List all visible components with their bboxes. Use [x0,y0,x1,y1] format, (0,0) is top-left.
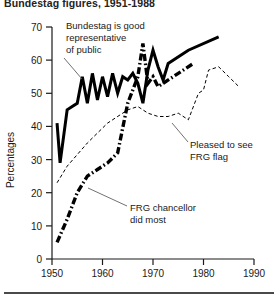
y-tick-label-60: 60 [31,55,43,66]
x-tick-label-1960: 1960 [91,268,114,279]
chart-plot-area: 70 60 50 40 30 20 10 0 1950 1960 1970 19… [0,0,278,302]
y-tick-label-20: 20 [31,188,43,199]
annotation-chancellor-line1: FRG chancellor [130,202,196,213]
annotation-chancellor: FRG chancellor did most [88,188,196,225]
y-tick-label-50: 50 [31,88,43,99]
y-tick-label-10: 10 [31,221,43,232]
annotation-bundestag: Bundestag is good representative of publ… [64,20,145,79]
annotation-bundestag-leader [64,58,82,79]
annotation-bundestag-line2: representative [66,32,126,43]
annotation-chancellor-line2: did most [130,214,166,225]
y-tick-label-40: 40 [31,121,43,132]
annotation-flag-line2: FRG flag [190,151,228,162]
x-tick-label-1970: 1970 [142,268,165,279]
y-tick-label-30: 30 [31,155,43,166]
y-axis-title: Percentages [5,132,16,188]
y-axis [46,27,52,259]
x-tick-label-1950: 1950 [41,268,64,279]
x-axis [52,259,254,265]
annotation-flag-leader [172,123,188,142]
annotation-chancellor-leader [88,188,127,206]
annotation-bundestag-line3: of public [66,44,102,55]
annotation-flag: Pleased to see FRG flag [172,123,253,162]
x-tick-label-1990: 1990 [243,268,266,279]
annotation-flag-line1: Pleased to see [190,139,253,150]
x-tick-label-1980: 1980 [192,268,215,279]
chart-figure: Bundestag figures, 1951-1988 70 60 50 40 [0,0,278,302]
bottom-divider [4,292,274,294]
y-tick-label-0: 0 [36,254,42,265]
annotation-bundestag-line1: Bundestag is good [66,20,145,31]
y-tick-label-70: 70 [31,22,43,33]
